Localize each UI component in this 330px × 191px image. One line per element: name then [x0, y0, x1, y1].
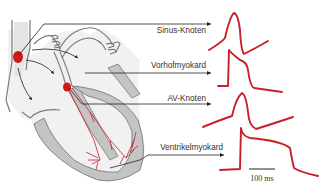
heart-illustration	[6, 20, 145, 181]
heart-conduction-diagram: Sinus-Knoten Vorhofmyokard AV-Knoten Ven…	[0, 0, 330, 191]
label-ventricular-myocardium: Ventrikelmyokard	[160, 143, 223, 152]
ap-trace-sinus	[209, 13, 268, 54]
av-node	[63, 83, 71, 92]
sinus-node	[13, 51, 23, 63]
ap-trace-atrial	[218, 50, 282, 92]
label-sinus-node: Sinus-Knoten	[157, 26, 207, 35]
label-av-node: AV-Knoten	[167, 94, 206, 103]
ap-trace-av	[203, 93, 293, 129]
label-atrial-myocardium: Vorhofmyokard	[151, 61, 207, 70]
scale-bar-label: 100 ms	[250, 174, 273, 183]
